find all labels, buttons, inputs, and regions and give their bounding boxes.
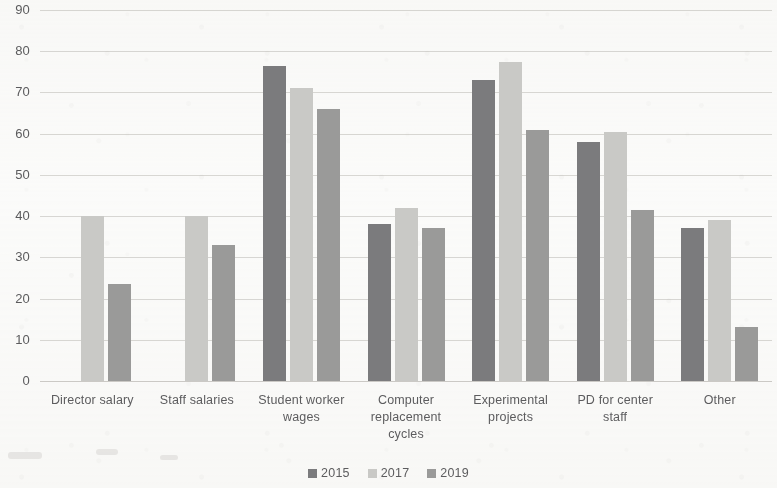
x-axis-category-label: Computerreplacementcycles — [354, 392, 459, 443]
bar-2015[interactable] — [681, 228, 704, 381]
x-axis-category-label: Student workerwages — [249, 392, 354, 443]
category-label-line: Student worker — [251, 392, 352, 409]
scan-artifact — [96, 449, 118, 455]
bar-2019[interactable] — [108, 284, 131, 381]
bar-2015[interactable] — [472, 80, 495, 381]
category-label-line: projects — [460, 409, 561, 426]
bar-groups — [40, 10, 772, 381]
legend-swatch-icon — [308, 469, 317, 478]
legend-label: 2015 — [321, 466, 350, 480]
bar-2017[interactable] — [290, 88, 313, 381]
bar-2015[interactable] — [577, 142, 600, 381]
y-tick-label-90: 90 — [0, 3, 30, 16]
scan-artifact — [8, 452, 42, 459]
bar-2017[interactable] — [499, 62, 522, 381]
category-label-line: Experimental — [460, 392, 561, 409]
x-axis-category-label: Other — [667, 392, 772, 443]
bar-2017[interactable] — [81, 216, 104, 381]
category-label-line: Staff salaries — [147, 392, 248, 409]
bar-group — [458, 10, 563, 381]
bar-2015[interactable] — [368, 224, 391, 381]
bar-2017[interactable] — [395, 208, 418, 381]
bar-group — [354, 10, 459, 381]
gridline-0 — [40, 381, 772, 382]
bar-2015[interactable] — [263, 66, 286, 381]
x-axis-category-label: Experimentalprojects — [458, 392, 563, 443]
y-tick-label-30: 30 — [0, 250, 30, 263]
legend-label: 2019 — [440, 466, 469, 480]
bar-group-bars — [40, 10, 145, 381]
bar-2019[interactable] — [422, 228, 445, 381]
bar-group-bars — [249, 10, 354, 381]
bar-group-bars — [145, 10, 250, 381]
category-label-line: Other — [669, 392, 770, 409]
bar-2019[interactable] — [212, 245, 235, 381]
y-tick-label-10: 10 — [0, 333, 30, 346]
category-label-line: Director salary — [42, 392, 143, 409]
x-axis-category-labels: Director salaryStaff salariesStudent wor… — [40, 392, 772, 443]
bar-2019[interactable] — [526, 130, 549, 381]
bar-2017[interactable] — [185, 216, 208, 381]
bar-group — [145, 10, 250, 381]
y-tick-label-0: 0 — [0, 374, 30, 387]
chart-legend: 201520172019 — [0, 466, 777, 480]
bar-group-bars — [563, 10, 668, 381]
y-tick-label-60: 60 — [0, 127, 30, 140]
chart-page: 9080706050403020100 Director salaryStaff… — [0, 0, 777, 488]
legend-item-2017[interactable]: 2017 — [368, 466, 410, 480]
bar-group — [667, 10, 772, 381]
bar-2019[interactable] — [735, 327, 758, 381]
category-label-line: PD for center — [565, 392, 666, 409]
x-axis-category-label: Staff salaries — [145, 392, 250, 443]
bar-2019[interactable] — [317, 109, 340, 381]
category-label-line: cycles — [356, 426, 457, 443]
y-tick-label-50: 50 — [0, 168, 30, 181]
bar-group — [40, 10, 145, 381]
y-tick-label-70: 70 — [0, 85, 30, 98]
x-axis-category-label: Director salary — [40, 392, 145, 443]
x-axis-category-label: PD for centerstaff — [563, 392, 668, 443]
legend-swatch-icon — [368, 469, 377, 478]
bar-group-bars — [667, 10, 772, 381]
legend-item-2015[interactable]: 2015 — [308, 466, 350, 480]
scan-artifact — [160, 455, 178, 460]
category-label-line: replacement — [356, 409, 457, 426]
legend-swatch-icon — [427, 469, 436, 478]
category-label-line: staff — [565, 409, 666, 426]
bar-group — [563, 10, 668, 381]
bar-2017[interactable] — [708, 220, 731, 381]
y-tick-label-80: 80 — [0, 44, 30, 57]
y-tick-label-40: 40 — [0, 209, 30, 222]
legend-item-2019[interactable]: 2019 — [427, 466, 469, 480]
legend-label: 2017 — [381, 466, 410, 480]
bar-group-bars — [458, 10, 563, 381]
bar-group-bars — [354, 10, 459, 381]
category-label-line: wages — [251, 409, 352, 426]
bar-group — [249, 10, 354, 381]
bar-2017[interactable] — [604, 132, 627, 381]
y-tick-label-20: 20 — [0, 292, 30, 305]
bar-2019[interactable] — [631, 210, 654, 381]
category-label-line: Computer — [356, 392, 457, 409]
